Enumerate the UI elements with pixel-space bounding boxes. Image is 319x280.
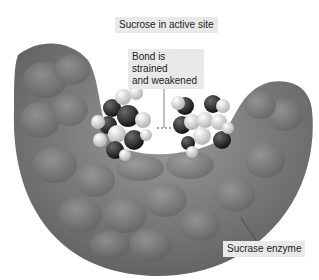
- bond-label-line1: Bond is strained: [132, 51, 200, 75]
- active-site-label: Sucrose in active site: [115, 17, 218, 33]
- bond-label-line2: and weakened: [132, 75, 200, 87]
- bond-strained-label: Bond is strained and weakened: [128, 49, 204, 89]
- enzyme-label: Sucrase enzyme: [223, 241, 305, 257]
- enzyme-illustration: [0, 0, 319, 280]
